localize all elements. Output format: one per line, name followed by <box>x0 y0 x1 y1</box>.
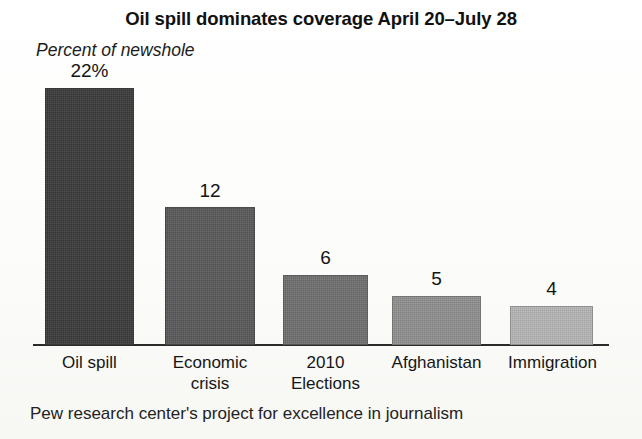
bar-value-oil-spill: 22% <box>45 60 134 82</box>
bar-economic-crisis <box>165 207 255 345</box>
category-label-line: Afghanistan <box>378 352 495 373</box>
bar-value-economic-crisis: 12 <box>165 180 255 202</box>
category-label-line: crisis <box>155 373 265 394</box>
category-label-line: Elections <box>273 373 378 394</box>
category-label-oil-spill: Oil spill <box>35 352 144 373</box>
plot-area: 22% Oil spill 12 Economic crisis 6 2010 … <box>0 0 642 439</box>
bar-immigration <box>510 306 593 345</box>
source-note: Pew research center's project for excell… <box>30 404 463 424</box>
bar-2010-elections <box>283 275 368 345</box>
bar-value-2010-elections: 6 <box>283 247 368 269</box>
category-label-line: Immigration <box>495 352 610 373</box>
category-label-2010-elections: 2010 Elections <box>273 352 378 394</box>
category-label-immigration: Immigration <box>495 352 610 373</box>
bar-afghanistan <box>392 296 481 345</box>
category-label-line: Oil spill <box>35 352 144 373</box>
category-label-line: 2010 <box>273 352 378 373</box>
category-label-economic-crisis: Economic crisis <box>155 352 265 394</box>
category-label-afghanistan: Afghanistan <box>378 352 495 373</box>
bar-oil-spill <box>45 88 134 345</box>
category-label-line: Economic <box>155 352 265 373</box>
bar-value-afghanistan: 5 <box>392 268 481 290</box>
bar-value-immigration: 4 <box>510 278 593 300</box>
chart-page: Oil spill dominates coverage April 20–Ju… <box>0 0 642 439</box>
